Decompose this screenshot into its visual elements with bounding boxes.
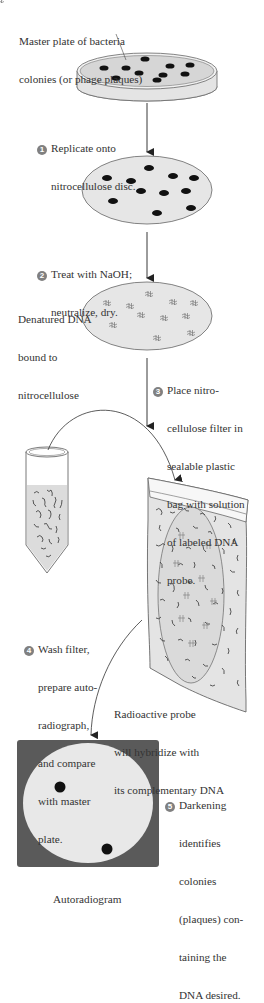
step-text: colonies xyxy=(165,875,243,888)
step-text: identifies xyxy=(165,837,243,850)
step-1-instruction: 1Replicate onto nitrocellulose disc. xyxy=(37,117,136,206)
step-text: probe. xyxy=(153,574,245,587)
step-text: Darkening xyxy=(179,799,226,811)
denatured-dna-label-line: bound to xyxy=(18,351,92,364)
step-3-instruction: 3Place nitro- cellulose filter in sealab… xyxy=(153,359,245,599)
denatured-dna-label-line: Denatured DNA xyxy=(18,313,92,326)
step-text: nitrocellulose disc. xyxy=(37,180,136,193)
denatured-dna-label: Denatured DNA bound to nitrocellulose xyxy=(18,288,92,414)
step-text: (plaques) con- xyxy=(165,913,243,926)
master-plate-label: Master plate of bacteria colonies (or ph… xyxy=(19,10,142,98)
radioactive-probe-label-line: will hybridize with xyxy=(114,746,224,759)
probe-test-tube xyxy=(26,447,68,573)
step-number-badge: 3 xyxy=(153,387,163,397)
autoradiogram-caption: Autoradiogram xyxy=(53,893,121,906)
step-4-instruction: 4Wash filter, prepare auto- radiograph, … xyxy=(24,618,97,858)
step-text: radiograph, xyxy=(24,719,97,732)
step-text: prepare auto- xyxy=(24,681,97,694)
step-text: plate. xyxy=(24,833,97,846)
step-text: of labeled DNA xyxy=(153,536,245,549)
denatured-dna-label-line: nitrocellulose xyxy=(18,389,92,402)
step-text: Replicate onto xyxy=(51,142,116,154)
step-text: bag with solution xyxy=(153,498,245,511)
step-text: Wash filter, xyxy=(38,643,89,655)
step-text: cellulose filter in xyxy=(153,422,245,435)
step-text: Place nitro- xyxy=(167,384,219,396)
step-5-instruction: 5Darkening identifies colonies (plaques)… xyxy=(165,774,243,1003)
step-number-badge: 4 xyxy=(24,646,34,656)
step-text: with master xyxy=(24,795,97,808)
radioactive-probe-label-line: Radioactive probe xyxy=(114,708,224,721)
step-text: Treat with NaOH; xyxy=(51,268,132,280)
step-number-badge: 5 xyxy=(165,802,175,812)
master-plate-label-line: colonies (or phage plaques) xyxy=(19,73,142,86)
step-text: and compare xyxy=(24,757,97,770)
positive-colony-spot xyxy=(102,844,113,855)
step-text: sealable plastic xyxy=(153,460,245,473)
step-text: DNA desired. xyxy=(165,989,243,1002)
step-number-badge: 1 xyxy=(37,145,47,155)
step-text: taining the xyxy=(165,951,243,964)
master-plate-label-line: Master plate of bacteria xyxy=(19,35,142,48)
step-number-badge: 2 xyxy=(37,271,47,281)
